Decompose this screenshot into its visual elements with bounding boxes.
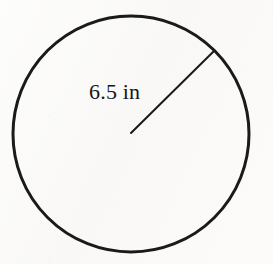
circle-diagram-figure: 6.5 in [0, 0, 273, 264]
radius-measurement-label: 6.5 in [89, 80, 140, 104]
radius-line [131, 51, 214, 133]
diagram-canvas [0, 0, 273, 264]
